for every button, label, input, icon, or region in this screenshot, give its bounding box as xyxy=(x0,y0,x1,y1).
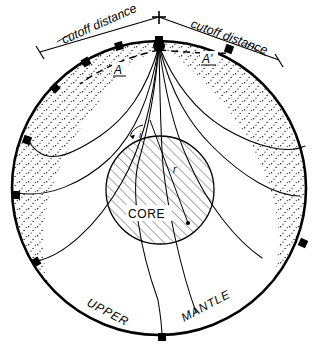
arc-a-label: A xyxy=(113,63,122,77)
core-boundary-circle xyxy=(106,136,214,244)
core-label: CORE xyxy=(126,205,172,221)
core-region xyxy=(106,136,214,244)
figure-canvas: r i A A' xyxy=(0,0,320,355)
earthquake-source-dot xyxy=(153,40,165,52)
core-label-text: CORE xyxy=(128,207,165,221)
surface-marker xyxy=(158,333,166,341)
surface-marker xyxy=(12,191,20,199)
seismic-ray-diagram: r i A A' xyxy=(0,0,320,355)
core-center-dot xyxy=(186,221,190,225)
arc-a-prime-label: A' xyxy=(201,52,213,66)
